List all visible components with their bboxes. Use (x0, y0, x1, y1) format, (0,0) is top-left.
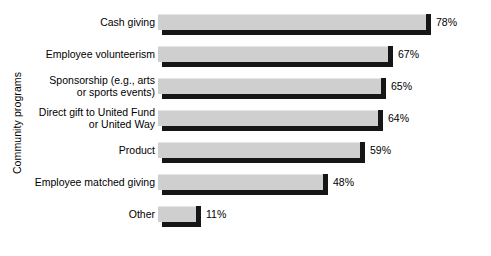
category-label: Cash giving (0, 17, 155, 29)
bar-row: Employee volunteerism67% (0, 44, 491, 76)
bar-chart: Community programs Cash giving78%Employe… (0, 0, 491, 256)
value-label: 11% (206, 208, 226, 220)
category-label: Other (0, 209, 155, 221)
bar (158, 78, 386, 100)
value-label: 65% (391, 80, 412, 92)
bar-end-cap (323, 174, 328, 195)
bar (158, 110, 383, 132)
bar-shadow (162, 30, 430, 35)
bar-shadow (162, 94, 385, 99)
value-label: 59% (370, 144, 391, 156)
bar-shadow (162, 158, 364, 163)
bar-end-cap (378, 110, 383, 131)
bar (158, 174, 328, 196)
bar (158, 14, 431, 36)
bar-end-cap (426, 14, 431, 35)
bar-face (158, 142, 360, 158)
bar-shadow (162, 126, 382, 131)
bar-face (158, 46, 388, 62)
bar-face (158, 110, 378, 126)
bar-shadow (162, 62, 392, 67)
bar-end-cap (381, 78, 386, 99)
plot-area: Cash giving78%Employee volunteerism67%Sp… (0, 0, 491, 256)
value-label: 64% (388, 112, 409, 124)
value-label: 67% (398, 48, 419, 60)
category-label: Employee matched giving (0, 177, 155, 189)
bar (158, 206, 201, 228)
bar-face (158, 78, 381, 94)
bar (158, 46, 393, 68)
bar-face (158, 14, 426, 30)
bar-end-cap (360, 142, 365, 163)
bar (158, 142, 365, 164)
value-label: 78% (436, 16, 457, 28)
bar-face (158, 206, 196, 222)
category-label: Product (0, 145, 155, 157)
category-label: Employee volunteerism (0, 49, 155, 61)
category-label: Sponsorship (e.g., arts or sports events… (0, 75, 155, 98)
value-label: 48% (333, 176, 354, 188)
bar-face (158, 174, 323, 190)
bar-row: Cash giving78% (0, 12, 491, 44)
bar-row: Employee matched giving48% (0, 172, 491, 204)
bar-shadow (162, 190, 327, 195)
bar-row: Product59% (0, 140, 491, 172)
bar-shadow (162, 222, 200, 227)
bar-end-cap (196, 206, 201, 227)
bar-end-cap (388, 46, 393, 67)
bar-row: Direct gift to United Fund or United Way… (0, 108, 491, 140)
bar-row: Other11% (0, 204, 491, 236)
bar-row: Sponsorship (e.g., arts or sports events… (0, 76, 491, 108)
category-label: Direct gift to United Fund or United Way (0, 107, 155, 130)
